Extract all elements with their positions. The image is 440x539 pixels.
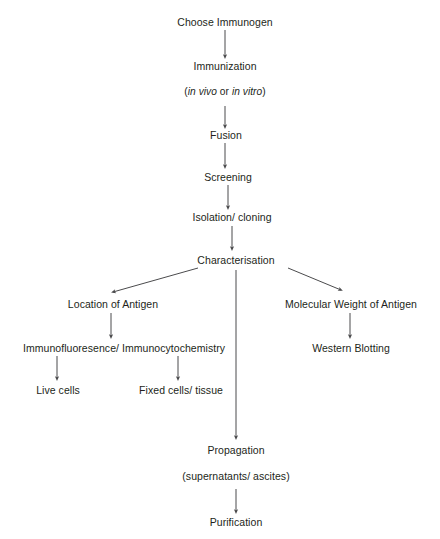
note-in-vivo: in vivo — [188, 86, 217, 97]
edge-characterisation-to-molecular-weight — [288, 268, 341, 290]
node-characterisation: Characterisation — [197, 254, 274, 266]
node-molecular-weight-of-antigen: Molecular Weight of Antigen — [285, 298, 417, 310]
node-screening: Screening — [204, 171, 252, 183]
node-immunofluoresence-immunocytochemistry: Immunofluoresence/ Immunocytochemistry — [23, 342, 225, 354]
node-fusion: Fusion — [210, 129, 242, 141]
note-or: or — [217, 86, 232, 97]
edge-characterisation-to-location — [113, 268, 198, 292]
node-western-blotting: Western Blotting — [312, 342, 390, 354]
node-fixed-cells-tissue: Fixed cells/ tissue — [139, 384, 223, 396]
node-propagation-note: (supernatants/ ascites) — [182, 470, 289, 482]
node-live-cells: Live cells — [36, 384, 80, 396]
node-location-of-antigen: Location of Antigen — [68, 298, 158, 310]
node-purification: Purification — [210, 516, 263, 528]
node-propagation: Propagation — [207, 444, 264, 456]
node-immunization: Immunization — [193, 60, 256, 72]
note-paren-close: ) — [262, 86, 265, 97]
node-isolation-cloning: Isolation/ cloning — [192, 211, 271, 223]
node-immunization-note: (in vivo or in vitro) — [184, 86, 265, 98]
note-in-vitro: in vitro — [232, 86, 262, 97]
node-choose-immunogen: Choose Immunogen — [177, 16, 272, 28]
flowchart-canvas: Choose Immunogen Immunization (in vivo o… — [0, 0, 440, 539]
flowchart-connectors — [0, 0, 440, 539]
